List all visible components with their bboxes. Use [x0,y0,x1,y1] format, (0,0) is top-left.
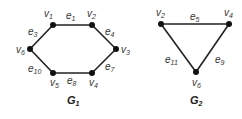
g2-edge-labels: e5 e11 e9 [165,11,225,66]
vertex-label-v6: v6 [16,44,25,56]
graph-g2: v2 v4 v6 e5 e11 e9 G2 [156,7,233,107]
g1-edge-labels: e1 e4 e7 e8 e10 e3 [28,10,116,87]
vertex-v3 [113,46,119,52]
edge-label-e4: e4 [105,26,115,38]
edge-label-e10: e10 [28,63,41,75]
edge-label-e5: e5 [190,11,200,23]
vertex-v5 [50,70,56,76]
vertex-label-v5: v5 [50,77,59,89]
vertex-label-v1: v1 [44,8,53,20]
vertex-label-v2: v2 [87,8,96,20]
graph-diagram: v1 v2 v3 v4 v5 v6 e1 e4 e7 e8 e10 e3 G1 [0,0,242,119]
vertex-v2 [89,22,95,28]
g2-vertices [158,21,232,75]
vertex-v6 [27,46,33,52]
vertex-v2 [158,21,164,27]
vertex-v4 [89,70,95,76]
edge-label-e8: e8 [67,75,77,87]
edge-label-e9: e9 [215,54,225,66]
graph-g1: v1 v2 v3 v4 v5 v6 e1 e4 e7 e8 e10 e3 G1 [16,8,130,107]
vertex-label-v4: v4 [224,7,233,19]
edge-label-e11: e11 [165,54,178,66]
edge-label-e3: e3 [28,26,38,38]
vertex-v6 [193,69,199,75]
graph-title-g1: G1 [67,94,80,107]
graph-title-g2: G2 [190,94,203,107]
vertex-v4 [226,21,232,27]
vertex-label-v3: v3 [121,44,130,56]
vertex-v1 [50,22,56,28]
g1-edges [30,25,116,73]
vertex-label-v6: v6 [192,77,201,89]
edge-label-e7: e7 [105,61,116,73]
vertex-label-v4: v4 [89,77,98,89]
vertex-label-v2: v2 [156,7,165,19]
edge-label-e1: e1 [66,10,76,22]
